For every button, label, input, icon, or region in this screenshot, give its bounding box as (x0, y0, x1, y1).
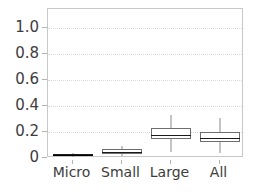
median-line (151, 135, 191, 136)
y-tick-mark-0 (42, 157, 47, 158)
whisker-lower (170, 139, 171, 151)
box-iqr (151, 128, 191, 140)
boxplot-all (200, 9, 240, 158)
x-tick-label-all: All (210, 164, 227, 180)
y-tick-mark-1 (42, 131, 47, 132)
boxplot-micro (53, 9, 93, 158)
x-axis: MicroSmallLargeAll (0, 160, 255, 194)
whisker-lower (121, 154, 122, 156)
boxplot-small (102, 9, 142, 158)
whisker-lower (219, 142, 220, 153)
y-tick-mark-5 (42, 27, 47, 28)
plot-area (47, 8, 243, 157)
x-tick-label-micro: Micro (53, 164, 91, 180)
x-tick-label-small: Small (101, 164, 140, 180)
y-tick-label-2: 0.4 (15, 98, 39, 113)
x-tick-label-large: Large (150, 164, 189, 180)
y-tick-mark-2 (42, 105, 47, 106)
whisker-upper (170, 115, 171, 127)
boxplot-large (151, 9, 191, 158)
median-line (53, 155, 93, 156)
y-tick-mark-4 (42, 53, 47, 54)
y-tick-mark-3 (42, 79, 47, 80)
whisker-upper (219, 118, 220, 132)
y-tick-label-4: 0.8 (15, 46, 39, 61)
median-line (200, 138, 240, 139)
boxplot-figure: 00.20.40.60.81.0 MicroSmallLargeAll (0, 0, 255, 194)
y-tick-label-3: 0.6 (15, 72, 39, 87)
y-tick-label-5: 1.0 (15, 20, 39, 35)
whisker-lower (72, 156, 73, 157)
median-line (102, 152, 142, 153)
y-tick-label-1: 0.2 (15, 124, 39, 139)
